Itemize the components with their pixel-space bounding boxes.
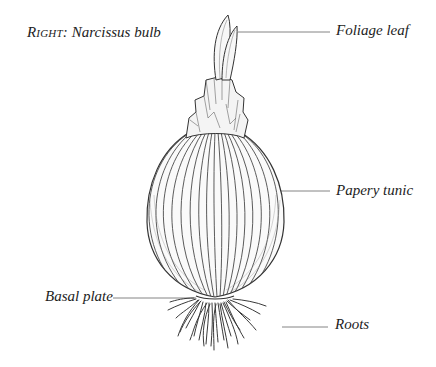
bulb-body (147, 132, 284, 297)
roots (168, 298, 266, 350)
foliage-leaves (214, 15, 237, 80)
label-roots: Roots (335, 316, 369, 333)
label-papery-tunic: Papery tunic (336, 182, 413, 199)
neck-scales (186, 76, 248, 138)
label-basal-plate: Basal plate (45, 288, 113, 305)
label-foliage-leaf: Foliage leaf (336, 22, 409, 39)
